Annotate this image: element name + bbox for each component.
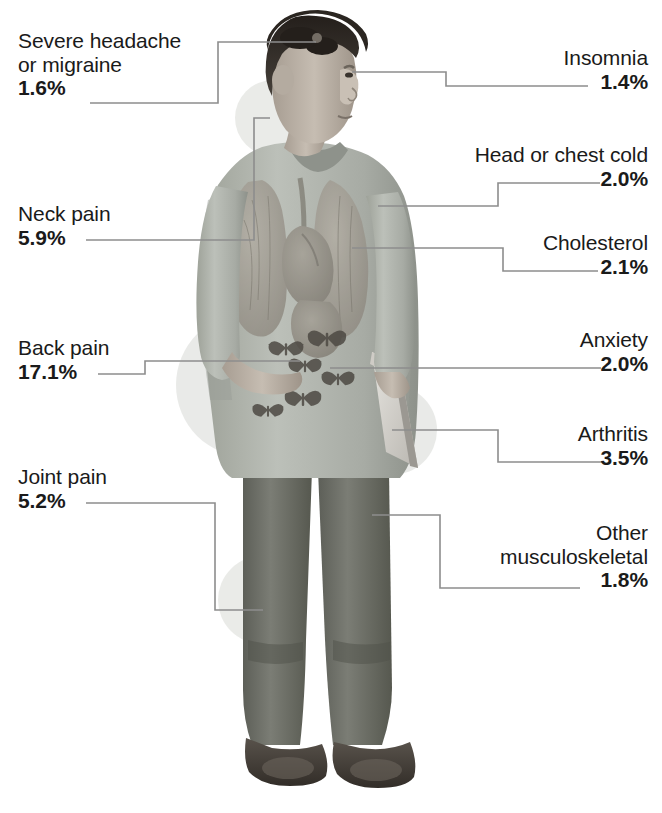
callout-anxiety: Anxiety 2.0% (580, 328, 648, 375)
callout-label: Cholesterol (543, 231, 648, 255)
callout-value: 2.0% (475, 167, 648, 191)
callout-cholesterol: Cholesterol 2.1% (543, 231, 648, 278)
anatomical-figure-illustration (0, 0, 662, 813)
callout-label: Severe headache (18, 29, 181, 53)
callout-back-pain: Back pain 17.1% (18, 336, 109, 383)
callout-joint-pain: Joint pain 5.2% (18, 465, 107, 512)
callout-insomnia: Insomnia 1.4% (564, 46, 648, 93)
callout-value: 3.5% (578, 446, 648, 470)
callout-label: Other (500, 521, 648, 545)
callout-value: 1.6% (18, 76, 181, 100)
callout-label: Neck pain (18, 202, 110, 226)
callout-neck-pain: Neck pain 5.9% (18, 202, 110, 249)
callout-label: Joint pain (18, 465, 107, 489)
infographic-canvas: Severe headache or migraine 1.6% Insomni… (0, 0, 662, 813)
shoes (245, 738, 415, 788)
callout-value: 2.0% (580, 352, 648, 376)
callout-label: Head or chest cold (475, 143, 648, 167)
callout-value: 2.1% (543, 255, 648, 279)
callout-label-line2: musculoskeletal (500, 545, 648, 569)
callout-head-or-chest-cold: Head or chest cold 2.0% (475, 143, 648, 190)
callout-value: 5.2% (18, 489, 107, 513)
callout-other-musculoskeletal: Other musculoskeletal 1.8% (500, 521, 648, 592)
callout-label: Back pain (18, 336, 109, 360)
callout-value: 5.9% (18, 226, 110, 250)
callout-label-line2: or migraine (18, 53, 181, 77)
legs (243, 470, 392, 745)
callout-value: 1.4% (564, 70, 648, 94)
callout-label: Arthritis (578, 422, 648, 446)
callout-label: Anxiety (580, 328, 648, 352)
callout-label: Insomnia (564, 46, 648, 70)
callout-severe-headache: Severe headache or migraine 1.6% (18, 29, 181, 100)
callout-value: 17.1% (18, 360, 109, 384)
callout-arthritis: Arthritis 3.5% (578, 422, 648, 469)
callout-value: 1.8% (500, 568, 648, 592)
